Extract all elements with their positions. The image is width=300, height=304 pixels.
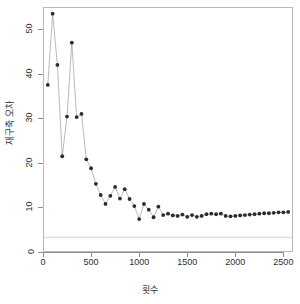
data-point bbox=[219, 212, 223, 216]
data-point bbox=[272, 211, 276, 215]
data-point bbox=[60, 154, 64, 158]
data-point bbox=[185, 215, 189, 219]
data-point bbox=[142, 202, 146, 206]
data-point bbox=[152, 215, 156, 219]
data-point bbox=[190, 213, 194, 217]
x-tick-label: 500 bbox=[84, 258, 99, 267]
x-tick-label: 2500 bbox=[273, 258, 293, 267]
data-point bbox=[248, 213, 252, 217]
chart-container: 재구축 오차 01020304050 05001000150020002500 … bbox=[0, 0, 300, 304]
y-tick-label-text: 40 bbox=[24, 68, 33, 78]
data-point bbox=[214, 212, 218, 216]
data-point bbox=[80, 112, 84, 116]
data-point bbox=[104, 202, 108, 206]
data-point bbox=[70, 41, 74, 45]
y-tick-label: 50 bbox=[0, 24, 34, 33]
data-point bbox=[281, 210, 285, 214]
data-point bbox=[238, 214, 242, 218]
data-point bbox=[99, 193, 103, 197]
y-axis-title-text: 재구축 오차 bbox=[3, 100, 16, 144]
data-point bbox=[205, 212, 209, 216]
data-point bbox=[108, 194, 112, 198]
x-tick-label: 1500 bbox=[177, 258, 197, 267]
data-point bbox=[161, 213, 165, 217]
data-point bbox=[89, 166, 93, 170]
data-point bbox=[94, 182, 98, 186]
data-point bbox=[65, 115, 69, 119]
y-tick-label-text: 30 bbox=[24, 113, 33, 123]
data-point bbox=[46, 83, 50, 87]
y-tick-label-text: 20 bbox=[24, 157, 33, 167]
data-point bbox=[147, 208, 151, 212]
data-point bbox=[113, 185, 117, 189]
data-point bbox=[195, 215, 199, 219]
data-point bbox=[132, 204, 136, 208]
data-point bbox=[267, 211, 271, 215]
data-point bbox=[181, 213, 185, 217]
data-point bbox=[176, 214, 180, 218]
y-tick-label: 10 bbox=[0, 202, 34, 211]
data-point bbox=[257, 212, 261, 216]
series-markers bbox=[46, 12, 290, 221]
data-point bbox=[75, 115, 79, 119]
data-point bbox=[253, 212, 257, 216]
y-tick-label: 0 bbox=[0, 247, 34, 256]
data-point bbox=[56, 63, 60, 67]
data-point bbox=[277, 210, 281, 214]
data-point bbox=[51, 12, 55, 16]
y-tick-label-text: 10 bbox=[24, 202, 33, 212]
data-point bbox=[171, 214, 175, 218]
x-tick-label: 2000 bbox=[225, 258, 245, 267]
y-tick-label: 30 bbox=[0, 113, 34, 122]
data-point bbox=[200, 214, 204, 218]
x-tick-label: 0 bbox=[40, 258, 45, 267]
data-point bbox=[118, 197, 122, 201]
data-point bbox=[224, 214, 228, 218]
data-point bbox=[229, 214, 233, 218]
data-point bbox=[166, 212, 170, 216]
data-point bbox=[123, 187, 127, 191]
x-tick-label: 1000 bbox=[129, 258, 149, 267]
y-tick-label: 20 bbox=[0, 158, 34, 167]
data-point bbox=[84, 157, 88, 161]
data-point bbox=[243, 213, 247, 217]
y-tick-label: 40 bbox=[0, 69, 34, 78]
x-axis-title: 횟수 bbox=[0, 283, 300, 296]
x-axis-spine bbox=[43, 252, 283, 253]
data-point bbox=[137, 217, 141, 221]
series-line bbox=[48, 14, 288, 219]
data-point bbox=[128, 197, 132, 201]
data-point bbox=[209, 212, 213, 216]
data-point bbox=[156, 205, 160, 209]
y-tick-label-text: 0 bbox=[27, 249, 36, 254]
y-tick-label-text: 50 bbox=[24, 24, 33, 34]
plot-area bbox=[43, 7, 293, 252]
data-point bbox=[233, 214, 237, 218]
data-point bbox=[262, 211, 266, 215]
data-point bbox=[286, 210, 290, 214]
